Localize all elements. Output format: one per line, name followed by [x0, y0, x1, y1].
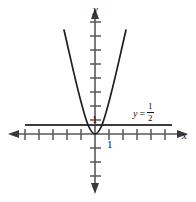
y-axis-label: y: [93, 4, 98, 15]
equation-variable: y: [133, 109, 137, 119]
x-axis-label: x: [182, 130, 187, 141]
fraction-denominator: 2: [147, 112, 154, 123]
equation-fraction: 1 2: [147, 102, 154, 123]
y-axis-unit-label: 1: [92, 114, 98, 125]
x-axis-left-arrowhead: [8, 130, 19, 138]
equation-equals-sign: =: [139, 109, 145, 119]
graph-figure: y x 1 1 y = 1 2: [0, 0, 196, 202]
equation-label: y = 1 2: [133, 103, 154, 124]
graph-canvas: [0, 0, 196, 202]
x-axis-unit-label: 1: [107, 139, 113, 150]
fraction-numerator: 1: [147, 102, 154, 112]
y-axis-bottom-arrowhead: [91, 183, 99, 194]
